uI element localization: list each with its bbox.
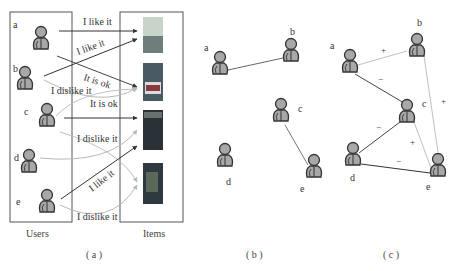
user-c-person-icon[interactable] [273,99,288,122]
rating-label-6: I dislike it [77,133,118,144]
rating-label-2: I like it [75,37,106,57]
items-axis-label: Items [143,228,165,239]
user-e-person-icon[interactable] [430,154,445,177]
diagram-canvas: a b c d e I like it I like it It is ok I… [0,0,455,271]
panel-a: a b c d e I like it I like it It is ok I… [10,12,183,261]
sign-a-c: − [378,74,383,84]
b-user-label-d: d [226,176,231,187]
user-c-person-icon[interactable] [399,100,414,123]
user-label-d: d [14,152,19,163]
rating-label-8: I dislike it [77,211,118,222]
user-label-c: c [24,106,29,117]
item-book-1[interactable] [143,17,163,53]
sign-c-d: − [376,122,381,132]
user-b-person-icon[interactable] [283,39,298,62]
item-book-4[interactable] [143,163,163,204]
sign-b-e: + [441,96,446,106]
users-axis-label: Users [26,228,49,239]
c-user-label-a: a [330,40,335,51]
c-user-label-b: b [417,17,422,28]
user-a-person-icon[interactable] [212,52,227,75]
user-d-person-icon[interactable] [217,144,232,167]
sign-a-b: + [381,45,386,55]
edge-c-e [285,125,308,165]
sign-d-e: − [396,156,401,166]
panel-b: a b c d e ( b ) [204,26,322,261]
user-label-a: a [13,19,18,30]
user-b-person-icon[interactable] [17,67,32,90]
user-label-e: e [16,196,21,207]
rating-label-4: I dislike it [51,85,92,96]
user-a-person-icon[interactable] [342,50,357,73]
item-book-3[interactable] [143,110,163,150]
rating-label-1: I like it [83,16,112,27]
user-d-person-icon[interactable] [345,143,360,166]
panel-c-caption: ( c ) [383,249,399,261]
b-user-label-c: c [298,103,303,114]
user-a-person-icon[interactable] [33,27,48,50]
panel-c: a b c d e + − + − + − ( c ) [330,17,446,261]
user-d-person-icon[interactable] [21,150,36,173]
user-e-person-icon[interactable] [306,155,321,178]
c-user-label-c: c [422,98,427,109]
user-e-person-icon[interactable] [39,190,54,213]
rating-label-5: It is ok [90,98,118,109]
b-user-label-a: a [204,42,209,53]
edge-a-b [228,58,283,70]
c-user-label-d: d [350,172,355,183]
user-label-b: b [13,63,18,74]
b-user-label-e: e [300,183,305,194]
edge-c-e [414,122,431,168]
panel-b-caption: ( b ) [246,249,263,261]
c-user-label-e: e [426,181,431,192]
user-b-person-icon[interactable] [409,34,424,57]
user-c-person-icon[interactable] [39,104,54,127]
sign-c-e: + [410,137,415,147]
item-book-2[interactable] [143,63,163,101]
b-user-label-b: b [290,26,295,37]
panel-a-caption: ( a ) [86,249,102,261]
